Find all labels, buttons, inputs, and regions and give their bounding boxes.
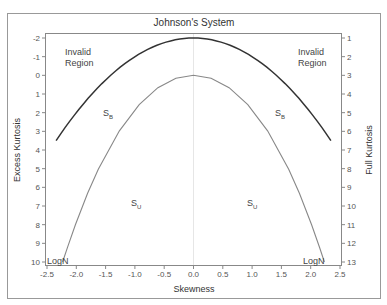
- x-tick-label: -0.5: [157, 270, 171, 279]
- annotation-logn-right: LogN: [303, 256, 325, 266]
- y-right-tick-label: 12: [347, 239, 356, 248]
- x-tick-label: 2.0: [305, 270, 317, 279]
- y-right-tick-label: 5: [347, 109, 352, 118]
- y-tick-label: 4: [36, 146, 41, 155]
- y-tick-label: 6: [36, 183, 41, 192]
- y-right-tick-label: 1: [347, 34, 352, 43]
- x-tick-label: 0.0: [188, 270, 200, 279]
- svg-text:Region: Region: [298, 58, 327, 68]
- y-tick-label: 3: [36, 127, 41, 136]
- x-axis-title: Skewness: [173, 284, 215, 294]
- y-right-tick-label: 7: [347, 146, 352, 155]
- y-tick-label: -1: [33, 53, 41, 62]
- y-axis-right-title: Full Kurtosis: [364, 125, 374, 175]
- y-tick-label: 2: [36, 109, 41, 118]
- svg-text:B: B: [281, 114, 285, 120]
- y-tick-label: -2: [33, 34, 41, 43]
- y-right-tick-label: 11: [347, 221, 356, 230]
- svg-text:Invalid: Invalid: [298, 47, 324, 57]
- y-right-tick-label: 2: [347, 53, 352, 62]
- x-tick-label: -1.0: [128, 270, 142, 279]
- y-right-tick-label: 10: [347, 202, 356, 211]
- y-right-tick-label: 9: [347, 183, 352, 192]
- x-tick-label: -2.0: [69, 270, 83, 279]
- y-tick-label: 10: [31, 258, 40, 267]
- y-tick-label: 9: [36, 239, 41, 248]
- y-tick-label: 7: [36, 202, 41, 211]
- x-tick-label: 2.5: [334, 270, 346, 279]
- y-right-tick-label: 13: [347, 258, 356, 267]
- y-right-tick-label: 6: [347, 127, 352, 136]
- johnson-system-chart: Johnson's System -2-1012345678910 123456…: [0, 0, 387, 305]
- svg-text:Invalid: Invalid: [65, 47, 91, 57]
- svg-text:Region: Region: [65, 58, 94, 68]
- x-tick-label: -2.5: [40, 270, 54, 279]
- svg-text:U: U: [137, 204, 141, 210]
- y-right-tick-label: 8: [347, 165, 352, 174]
- y-axis-left-title: Excess Kurtosis: [12, 117, 22, 182]
- y-tick-label: 5: [36, 165, 41, 174]
- y-tick-label: 1: [36, 90, 41, 99]
- y-tick-label: 8: [36, 221, 41, 230]
- svg-text:B: B: [109, 114, 113, 120]
- x-tick-label: 1.5: [276, 270, 288, 279]
- y-right-tick-label: 4: [347, 90, 352, 99]
- annotation-invalid-left: Invalid Region: [65, 47, 94, 68]
- x-tick-label: 0.5: [217, 270, 229, 279]
- svg-text:U: U: [253, 204, 257, 210]
- y-tick-label: 0: [36, 71, 41, 80]
- annotation-invalid-right: Invalid Region: [298, 47, 327, 68]
- chart-title: Johnson's System: [154, 17, 235, 28]
- x-tick-label: -1.5: [99, 270, 113, 279]
- y-right-tick-label: 3: [347, 71, 352, 80]
- x-tick-label: 1.0: [247, 270, 259, 279]
- annotation-logn-left: LogN: [47, 256, 69, 266]
